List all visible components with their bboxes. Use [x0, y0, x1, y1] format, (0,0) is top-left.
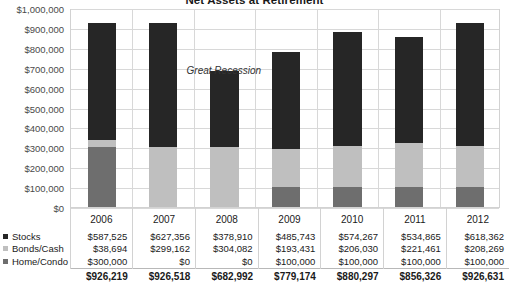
y-axis-tick-label: $800,000 [0, 43, 64, 54]
table-cell-value: $378,910 [195, 230, 258, 243]
legend-swatch-icon [3, 246, 8, 251]
table-cell-value: $0 [195, 255, 258, 268]
table-cell-value: $299,162 [133, 243, 196, 256]
bar-group[interactable] [149, 23, 177, 207]
legend-swatch-icon [3, 259, 8, 264]
y-axis-tick-label: $200,000 [0, 163, 64, 174]
chart-container: Net Assets at Retirement $1,000,000$900,… [0, 0, 509, 294]
table-cell-total: $779,174 [258, 268, 321, 285]
table-cell-total: $682,992 [195, 268, 258, 285]
legend-item-home-condo[interactable]: Home/Condo [0, 255, 70, 268]
legend-item-stocks[interactable]: Stocks [0, 230, 70, 243]
y-axis-tick-label: $700,000 [0, 63, 64, 74]
y-axis-tick-label: $600,000 [0, 83, 64, 94]
x-axis-category-label: 2008 [195, 208, 258, 230]
table-cell-value: $0 [133, 255, 196, 268]
table-cell-total: $926,518 [133, 268, 196, 285]
x-axis-category-label: 2009 [258, 208, 321, 230]
x-axis-category-label: 2006 [70, 208, 133, 230]
table-cell-total: $926,631 [446, 268, 509, 285]
bar-segment[interactable] [210, 147, 238, 208]
bar-segment[interactable] [210, 71, 238, 146]
bar-segment[interactable] [395, 37, 423, 143]
x-axis-category-label: 2010 [321, 208, 384, 230]
table-cell-value: $100,000 [321, 255, 384, 268]
bar-group[interactable] [395, 37, 423, 207]
bar-segment[interactable] [88, 23, 116, 140]
table-cell-value: $208,269 [446, 243, 509, 256]
y-axis-tick-label: $300,000 [0, 143, 64, 154]
bar-segment[interactable] [456, 23, 484, 146]
table-corner-cell [0, 208, 70, 230]
annotation-great-recession: Great Recession [187, 65, 261, 76]
y-axis-tick-label: $1,000,000 [0, 4, 64, 15]
table-row-totals: $926,219$926,518$682,992$779,174$880,297… [0, 268, 509, 285]
y-axis-tick-label: $100,000 [0, 183, 64, 194]
bar-group[interactable] [333, 32, 361, 207]
table-totals-label-cell [0, 268, 70, 285]
bar-segment[interactable] [395, 187, 423, 207]
plot-area: Great Recession [70, 9, 500, 208]
data-table: 2006200720082009201020112012Stocks$587,5… [0, 208, 509, 285]
y-axis-tick-label: $900,000 [0, 23, 64, 34]
chart-title: Net Assets at Retirement [0, 0, 509, 6]
table-cell-value: $534,865 [384, 230, 447, 243]
table-cell-value: $627,356 [133, 230, 196, 243]
y-axis-tick-label: $500,000 [0, 103, 64, 114]
x-axis-category-label: 2012 [446, 208, 509, 230]
table-cell-value: $300,000 [70, 255, 133, 268]
table-cell-value: $587,525 [70, 230, 133, 243]
table-cell-value: $206,030 [321, 243, 384, 256]
bar-segment[interactable] [456, 187, 484, 207]
bar-segment[interactable] [333, 32, 361, 146]
table-cell-value: $574,267 [321, 230, 384, 243]
bar-segment[interactable] [456, 146, 484, 187]
y-axis: $1,000,000$900,000$800,000$700,000$600,0… [0, 9, 64, 208]
bar-group[interactable] [272, 52, 300, 207]
legend-item-label: Stocks [12, 231, 41, 242]
bar-segment[interactable] [272, 52, 300, 149]
table-row: Home/Condo$300,000$0$0$100,000$100,000$1… [0, 255, 509, 268]
legend-item-bonds-cash[interactable]: Bonds/Cash [0, 243, 70, 256]
table-cell-total: $880,297 [321, 268, 384, 285]
table-cell-value: $100,000 [446, 255, 509, 268]
bar-segment[interactable] [395, 143, 423, 187]
table-cell-value: $618,362 [446, 230, 509, 243]
legend-item-label: Home/Condo [12, 256, 68, 267]
legend-item-label: Bonds/Cash [12, 243, 64, 254]
table-cell-value: $100,000 [384, 255, 447, 268]
bar-segment[interactable] [272, 149, 300, 187]
bar-segment[interactable] [88, 140, 116, 148]
table-cell-value: $221,461 [384, 243, 447, 256]
table-cell-value: $38,694 [70, 243, 133, 256]
table-row-years: 2006200720082009201020112012 [0, 208, 509, 230]
y-axis-tick-label: $400,000 [0, 123, 64, 134]
bar-segment[interactable] [88, 147, 116, 207]
x-axis-category-label: 2007 [133, 208, 196, 230]
table-cell-value: $193,431 [258, 243, 321, 256]
bar-group[interactable] [456, 23, 484, 207]
bar-segment[interactable] [333, 146, 361, 187]
table-cell-value: $100,000 [258, 255, 321, 268]
bar-segment[interactable] [272, 187, 300, 207]
legend-swatch-icon [3, 234, 8, 239]
bar-segment[interactable] [333, 187, 361, 207]
table-row: Bonds/Cash$38,694$299,162$304,082$193,43… [0, 243, 509, 256]
bars-layer [71, 9, 499, 207]
bar-segment[interactable] [149, 147, 177, 207]
data-table-body: 2006200720082009201020112012Stocks$587,5… [0, 208, 509, 285]
table-cell-total: $856,326 [384, 268, 447, 285]
table-cell-value: $304,082 [195, 243, 258, 256]
bar-group[interactable] [88, 23, 116, 207]
bar-group[interactable] [210, 71, 238, 207]
table-cell-value: $485,743 [258, 230, 321, 243]
bar-segment[interactable] [149, 23, 177, 148]
table-cell-total: $926,219 [70, 268, 133, 285]
table-row: Stocks$587,525$627,356$378,910$485,743$5… [0, 230, 509, 243]
x-axis-category-label: 2011 [384, 208, 447, 230]
